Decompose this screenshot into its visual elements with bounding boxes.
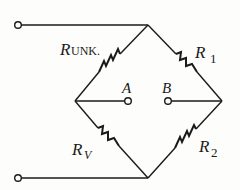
label-r-unk-main: R bbox=[59, 40, 71, 59]
resistor-r2 bbox=[148, 101, 222, 178]
label-rv-sub: V bbox=[84, 148, 93, 162]
bottom-input-terminal bbox=[15, 175, 22, 182]
label-r1-sub: 1 bbox=[210, 51, 217, 66]
terminal-a bbox=[125, 98, 132, 105]
label-r2-sub: 2 bbox=[211, 145, 218, 160]
top-input-terminal bbox=[15, 22, 22, 29]
label-r1-main: R bbox=[194, 43, 206, 62]
label-r2-main: R bbox=[198, 137, 210, 156]
label-r-unk-sub: UNK. bbox=[71, 44, 100, 58]
label-node-b: B bbox=[162, 80, 171, 96]
resistor-r-unk bbox=[75, 25, 148, 101]
terminal-b bbox=[165, 98, 172, 105]
wheatstone-bridge-diagram: R UNK. R 1 R V R 2 A B bbox=[0, 0, 240, 190]
resistor-rv bbox=[75, 101, 148, 178]
label-rv-main: R bbox=[71, 140, 83, 159]
circuit-svg: R UNK. R 1 R V R 2 A B bbox=[0, 0, 240, 190]
label-node-a: A bbox=[121, 80, 132, 96]
